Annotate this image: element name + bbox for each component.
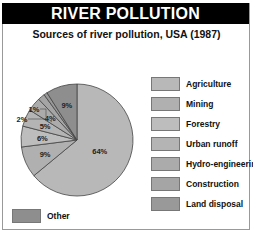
slice-label: 5% xyxy=(40,122,51,131)
legend-swatch xyxy=(151,97,180,111)
legend-label: Hydro-engineering xyxy=(186,159,253,169)
legend-item-construction: Construction xyxy=(151,177,239,191)
legend-swatch xyxy=(151,117,180,131)
legend-item-land-disposal: Land disposal xyxy=(151,197,243,211)
legend-label-other: Other xyxy=(47,211,70,221)
legend-label: Construction xyxy=(186,179,239,189)
legend-swatch xyxy=(151,77,180,91)
legend-label: Agriculture xyxy=(186,79,231,89)
legend-item-mining: Mining xyxy=(151,97,213,111)
slice-label: 64% xyxy=(92,147,107,156)
slice-label: 2% xyxy=(17,115,28,124)
slice-label: 9% xyxy=(61,101,72,110)
legend-item-agriculture: Agriculture xyxy=(151,77,231,91)
legend-label: Urban runoff xyxy=(186,139,237,149)
legend-swatch xyxy=(151,157,180,171)
slice-label: 6% xyxy=(37,134,48,143)
legend-swatch-other xyxy=(12,209,41,223)
legend-label: Forestry xyxy=(186,119,220,129)
legend-item-forestry: Forestry xyxy=(151,117,220,131)
legend-item-urban-runoff: Urban runoff xyxy=(151,137,237,151)
legend-swatch xyxy=(151,177,180,191)
legend-swatch xyxy=(151,137,180,151)
legend-label: Mining xyxy=(186,99,213,109)
legend-item-hydro-engineering: Hydro-engineering xyxy=(151,157,253,171)
legend-item-other: Other xyxy=(12,209,70,223)
legend-label: Land disposal xyxy=(186,199,243,209)
slice-label: 4% xyxy=(45,114,56,123)
slice-label: 1% xyxy=(29,105,40,114)
legend-swatch xyxy=(151,197,180,211)
slice-label: 9% xyxy=(40,150,51,159)
